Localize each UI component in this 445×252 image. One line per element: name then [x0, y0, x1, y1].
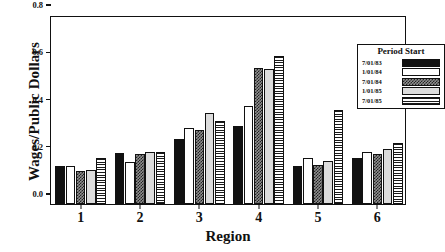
bar: [303, 158, 313, 204]
x-axis-tick-label: 4: [255, 211, 262, 225]
bar: [135, 154, 145, 204]
bar: [195, 130, 205, 204]
bar-group: [233, 17, 283, 204]
bar: [156, 152, 166, 204]
bar: [264, 69, 274, 204]
bar: [373, 154, 383, 204]
legend-entry-label: 1/01/84: [362, 69, 382, 76]
legend-entry: 1/01/84: [362, 68, 440, 76]
bar: [293, 166, 303, 204]
bar-group: [293, 17, 343, 204]
bar: [313, 165, 323, 204]
bar-group: [115, 17, 165, 204]
x-axis-tick: 1: [77, 204, 84, 225]
y-axis-tick: 0.4: [32, 95, 51, 105]
legend-swatch: [402, 78, 440, 86]
x-axis-title: Region: [50, 228, 406, 245]
legend-swatch: [402, 68, 440, 76]
x-axis-tick-label: 5: [315, 211, 322, 225]
y-axis-tick-label: 0.0: [32, 189, 43, 199]
legend-entry: 7/01/85: [362, 97, 440, 105]
legend-entry-label: 7/01/83: [362, 60, 382, 67]
x-axis-tick-label: 3: [196, 211, 203, 225]
bar: [66, 166, 76, 204]
bar: [96, 158, 106, 204]
bar: [76, 171, 86, 204]
x-axis-tick-label: 6: [374, 211, 381, 225]
bar: [115, 153, 125, 204]
bar: [233, 126, 243, 204]
y-axis-tick-mark: [46, 99, 51, 100]
y-axis-tick: 0.6: [32, 47, 51, 57]
legend-entry: 1/01/85: [362, 87, 440, 95]
x-axis-tick-mark: [139, 204, 140, 209]
y-axis-title: Wages/Public Dollars: [26, 12, 43, 212]
x-axis-tick-mark: [80, 204, 81, 209]
bar: [55, 166, 65, 204]
legend: Period Start 7/01/831/01/847/01/841/01/8…: [357, 44, 445, 109]
legend-entry-label: 7/01/85: [362, 98, 382, 105]
bar: [352, 158, 362, 204]
y-axis-tick: 0.2: [32, 142, 51, 152]
legend-entries: 7/01/831/01/847/01/841/01/857/01/85: [362, 59, 440, 105]
bar: [334, 110, 344, 205]
legend-swatch: [402, 87, 440, 95]
x-axis-tick-label: 2: [137, 211, 144, 225]
x-axis-tick-mark: [258, 204, 259, 209]
x-axis-tick-mark: [377, 204, 378, 209]
y-axis-tick-label: 0.6: [32, 47, 43, 57]
bar: [383, 149, 393, 204]
bar: [254, 68, 264, 204]
plot-area: 0.00.20.40.60.8 123456 Period Start 7/01…: [50, 16, 406, 205]
bar: [323, 161, 333, 204]
bar: [362, 152, 372, 204]
bar: [174, 139, 184, 204]
bar: [86, 170, 96, 204]
bar: [393, 143, 403, 204]
y-axis-tick-label: 0.4: [32, 95, 43, 105]
legend-entry-label: 7/01/84: [362, 79, 382, 86]
y-axis-tick-label: 0.2: [32, 142, 43, 152]
bar-group: [55, 17, 105, 204]
bar: [184, 128, 194, 204]
y-axis-tick-label: 0.8: [32, 0, 43, 10]
bar: [244, 106, 254, 204]
legend-entry: 7/01/83: [362, 59, 440, 67]
x-axis-tick-label: 1: [77, 211, 84, 225]
y-axis-tick-mark: [46, 146, 51, 147]
x-axis-tick: 6: [374, 204, 381, 225]
y-axis-tick: 0.0: [32, 189, 51, 199]
bar: [274, 56, 284, 204]
legend-entry-label: 1/01/85: [362, 88, 382, 95]
legend-swatch: [402, 97, 440, 105]
legend-title: Period Start: [362, 47, 440, 57]
x-axis-tick-mark: [199, 204, 200, 209]
bar-group: [174, 17, 224, 204]
x-axis-tick-mark: [317, 204, 318, 209]
legend-entry: 7/01/84: [362, 78, 440, 86]
bar: [125, 162, 135, 204]
bar: [205, 113, 215, 204]
y-axis-tick-mark: [46, 52, 51, 53]
x-axis-tick: 2: [137, 204, 144, 225]
y-axis-tick-mark: [46, 193, 51, 194]
x-axis-tick: 5: [315, 204, 322, 225]
x-axis-tick: 4: [255, 204, 262, 225]
x-axis-tick: 3: [196, 204, 203, 225]
legend-swatch: [402, 59, 440, 67]
bar: [145, 152, 155, 204]
bar: [215, 121, 225, 204]
y-axis-tick-mark: [46, 4, 51, 5]
y-axis-tick: 0.8: [32, 0, 51, 10]
